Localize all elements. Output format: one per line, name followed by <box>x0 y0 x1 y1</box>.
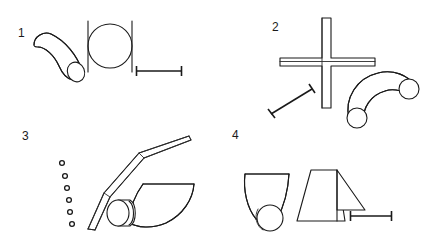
panel-3-label: 3 <box>22 129 29 143</box>
curved-fan-blade <box>128 184 194 227</box>
cylinder-end-ellipse <box>107 200 129 226</box>
small-circle <box>68 210 73 215</box>
curved-funnel-with-circle <box>244 174 289 231</box>
curved-tube-with-elliptical-opening <box>34 33 88 84</box>
small-circle <box>70 222 75 227</box>
panel-1-scale-bar <box>136 66 182 76</box>
small-circle <box>67 198 72 203</box>
small-circle <box>60 161 65 166</box>
panel-4-label: 4 <box>232 128 239 142</box>
circle-outline <box>88 24 132 68</box>
column-of-six-small-circles <box>60 161 75 227</box>
panel-4-scale-bar <box>350 211 392 221</box>
small-circle <box>63 174 68 179</box>
tube-opening-left <box>347 108 367 128</box>
panel-4: 4 <box>232 128 392 231</box>
arc-shaped-tube-with-two-circular-openings <box>347 72 419 128</box>
fan-base-cylinder <box>107 200 135 226</box>
panel-2: 2 <box>268 18 419 128</box>
figure-root: 1 2 <box>0 0 441 247</box>
panel-1-label: 1 <box>18 26 25 40</box>
panel-3: 3 <box>22 129 194 230</box>
trapezoid-with-triangular-flap <box>297 170 365 221</box>
triangular-flap <box>337 170 365 210</box>
panel-2-label: 2 <box>272 20 279 34</box>
circle-between-two-vertical-bars <box>88 21 132 72</box>
panel-2-scale-bar <box>268 84 315 118</box>
small-circle <box>65 186 70 191</box>
figure-canvas: 1 2 <box>0 0 441 247</box>
panel-1: 1 <box>18 21 182 84</box>
funnel-base-circle <box>257 205 283 231</box>
tube-opening-right <box>399 79 419 99</box>
